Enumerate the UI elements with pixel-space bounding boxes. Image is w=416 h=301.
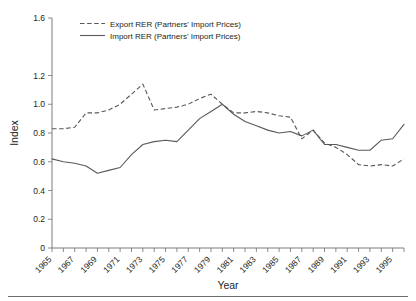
x-axis-tick-labels: 1965196719691971197319751977197919811983… [33,254,394,275]
legend-label-import: Import RER (Partners' Import Prices) [110,32,241,41]
y-tick-label: 0.6 [33,157,45,167]
y-tick-label: 0.8 [33,128,45,138]
y-tick-label: 0 [40,243,45,253]
x-axis-title: Year [217,279,239,291]
x-tick-label: 1983 [237,254,258,275]
y-axis-tick-labels: 00.20.40.60.81.01.21.6 [33,13,45,253]
x-tick-label: 1969 [78,254,99,275]
chart-legend: Export RER (Partners' Import Prices) Imp… [80,20,241,41]
y-tick-label: 1.0 [33,99,45,109]
y-tick-label: 1.2 [33,71,45,81]
x-tick-label: 1967 [56,254,77,275]
x-tick-label: 1965 [33,254,54,275]
series-paths [52,84,404,173]
x-tick-label: 1989 [305,254,326,275]
x-tick-label: 1975 [147,254,168,275]
y-axis-title: Index [8,119,20,145]
y-tick-label: 0.2 [33,214,45,224]
line-chart: 00.20.40.60.81.01.21.6 19651967196919711… [0,0,416,301]
x-tick-label: 1991 [328,254,349,275]
y-tick-label: 1.6 [33,13,45,23]
chart-figure: 00.20.40.60.81.01.21.6 19651967196919711… [0,0,416,301]
x-tick-label: 1979 [192,254,213,275]
x-tick-label: 1987 [283,254,304,275]
y-tick-label: 0.4 [33,186,45,196]
x-axis-ticks [52,248,404,252]
series-path-export-rer [52,84,404,166]
x-tick-label: 1971 [101,254,122,275]
legend-label-export: Export RER (Partners' Import Prices) [110,20,241,29]
footer-rule [8,296,408,297]
x-tick-label: 1993 [351,254,372,275]
x-tick-label: 1981 [215,254,236,275]
x-tick-label: 1985 [260,254,281,275]
series-path-import-rer [52,104,404,173]
x-tick-label: 1995 [374,254,395,275]
x-tick-label: 1977 [169,254,190,275]
y-axis-ticks [48,18,52,248]
x-tick-label: 1973 [124,254,145,275]
